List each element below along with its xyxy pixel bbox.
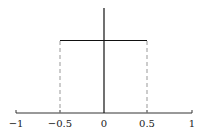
tick-label: −0.5 (48, 118, 72, 129)
box-function-diagram: −1 −0.5 0 0.5 1 (0, 0, 203, 133)
tick-label: 0.5 (139, 118, 155, 129)
tick-label: −1 (9, 118, 24, 129)
tick-label: 0 (101, 118, 107, 129)
tick-label: 1 (189, 118, 195, 129)
